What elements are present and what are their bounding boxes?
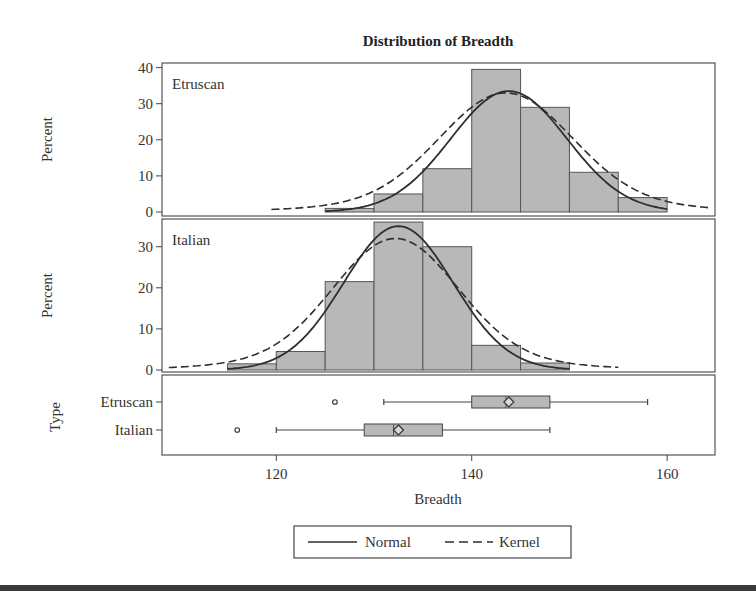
category-label: Italian xyxy=(115,422,154,438)
histogram-panel-etruscan: 010203040EtruscanPercent xyxy=(39,60,715,220)
y-axis-label: Percent xyxy=(39,272,55,318)
histogram-bar xyxy=(374,194,423,212)
histogram-bar xyxy=(569,172,618,212)
boxplot-frame xyxy=(162,375,715,455)
histogram-bar xyxy=(521,107,570,212)
y-tick-label: 30 xyxy=(138,239,153,255)
distribution-chart: Distribution of Breadth 010203040Etrusca… xyxy=(0,0,756,596)
y-tick-label: 40 xyxy=(138,60,153,76)
y-tick-label: 10 xyxy=(138,321,153,337)
legend-kernel-label: Kernel xyxy=(499,534,540,550)
y-tick-label: 30 xyxy=(138,96,153,112)
boxplot-y-axis-label: Type xyxy=(47,402,63,432)
x-axis-label: Breadth xyxy=(414,491,462,507)
x-tick-label: 120 xyxy=(265,466,288,482)
histogram-bar xyxy=(325,282,374,370)
y-axis-label: Percent xyxy=(39,116,55,162)
x-tick-label: 140 xyxy=(460,466,483,482)
legend: Normal Kernel xyxy=(294,526,571,558)
x-tick-label: 160 xyxy=(656,466,679,482)
x-axis: 120140160 xyxy=(265,455,678,482)
page-bottom-rule xyxy=(0,585,756,591)
outlier-marker xyxy=(235,428,240,433)
legend-normal-label: Normal xyxy=(365,534,411,550)
category-label: Etruscan xyxy=(101,394,154,410)
panel-label: Italian xyxy=(172,232,211,248)
chart-title: Distribution of Breadth xyxy=(363,33,514,49)
y-tick-label: 20 xyxy=(138,280,153,296)
histogram-bar xyxy=(472,345,521,370)
boxplot-panel: EtruscanItalianType xyxy=(47,375,715,455)
y-tick-label: 20 xyxy=(138,132,153,148)
histogram-bar xyxy=(423,169,472,212)
y-tick-label: 0 xyxy=(146,362,154,378)
y-tick-label: 0 xyxy=(146,204,154,220)
panel-label: Etruscan xyxy=(172,76,225,92)
y-tick-label: 10 xyxy=(138,168,153,184)
histogram-bar xyxy=(423,247,472,370)
outlier-marker xyxy=(333,400,338,405)
histogram-panel-italian: 0102030ItalianPercent xyxy=(39,219,715,378)
